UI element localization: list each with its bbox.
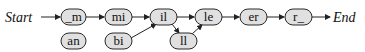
node-an: an [61,33,86,49]
node-ll: ll [170,33,197,49]
node-bi: bi [105,33,132,49]
node-le: le [195,9,222,25]
node-il: il [150,9,177,25]
start-label: Start [5,10,33,25]
end-label: End [332,10,357,25]
node-er: er [240,9,267,25]
edge-ll-le [192,25,202,34]
edge-bi-il [131,24,156,38]
lattice-diagram: Start End _m an mi bi il ll le er [0,0,365,52]
svg-text:an: an [67,33,80,48]
edge-il-ll [172,24,179,33]
svg-text:bi: bi [113,33,124,48]
svg-text:il: il [160,9,168,24]
svg-text:le: le [204,9,214,24]
svg-text:_m: _m [64,9,82,24]
svg-text:er: er [248,9,259,24]
node-m: _m [61,9,86,25]
svg-text:r_: r_ [293,9,304,24]
node-r: r_ [285,9,312,25]
svg-text:ll: ll [180,33,188,48]
svg-text:mi: mi [112,9,126,24]
node-mi: mi [105,9,132,25]
